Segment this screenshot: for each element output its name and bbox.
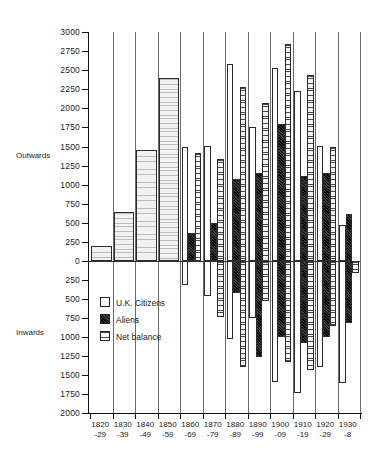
y-tick xyxy=(82,413,89,414)
y-tick-label: 750 xyxy=(42,314,80,323)
bar-net-balance-inwards xyxy=(307,261,314,370)
x-tick xyxy=(338,414,339,419)
x-tick xyxy=(180,414,181,419)
y-tick-label: 2750 xyxy=(42,47,80,56)
y-tick xyxy=(82,127,89,128)
bar-net-balance xyxy=(91,246,112,261)
bar-net-balance-inwards xyxy=(330,261,337,326)
bar-net-balance xyxy=(159,78,180,261)
bar-net-balance xyxy=(352,261,359,273)
x-label-decade-end: -8 xyxy=(337,430,360,440)
bar-net-balance xyxy=(240,87,247,261)
legend-swatch-net-balance xyxy=(100,331,110,341)
x-label-decade-end: -99 xyxy=(247,430,270,440)
x-tick-label: 1880-89 xyxy=(224,420,247,440)
y-tick xyxy=(82,51,89,52)
legend-swatch-uk-citizens xyxy=(100,297,110,307)
bar-net-balance xyxy=(262,103,269,261)
y-tick xyxy=(82,166,89,167)
x-tick-label: 1840-49 xyxy=(134,420,157,440)
x-label-decade-end: -19 xyxy=(292,430,315,440)
y-tick xyxy=(82,147,89,148)
x-tick xyxy=(248,414,249,419)
bar-net-balance xyxy=(114,212,135,261)
x-tick-label: 1870-79 xyxy=(202,420,225,440)
y-tick-label: 0 xyxy=(42,257,80,266)
x-label-decade-start: 1920 xyxy=(314,420,337,430)
y-tick xyxy=(82,108,89,109)
x-label-decade-start: 1850 xyxy=(157,420,180,430)
x-tick-label: 1920-29 xyxy=(314,420,337,440)
y-tick-label: 1750 xyxy=(42,123,80,132)
y-tick-label: 2000 xyxy=(42,409,80,418)
x-tick-label: 1890-99 xyxy=(247,420,270,440)
x-tick-label: 1830-39 xyxy=(112,420,135,440)
grid-line xyxy=(360,32,361,413)
bar-net-balance xyxy=(136,150,157,261)
x-label-decade-end: -59 xyxy=(157,430,180,440)
x-label-decade-start: 1890 xyxy=(247,420,270,430)
x-label-decade-end: -79 xyxy=(202,430,225,440)
legend-swatch-aliens xyxy=(100,314,110,324)
bar-net-balance-inwards xyxy=(240,261,247,367)
bar-aliens xyxy=(346,214,353,261)
x-label-decade-end: -89 xyxy=(224,430,247,440)
bar-net-balance-inwards xyxy=(285,261,292,362)
y-tick xyxy=(82,32,89,33)
y-tick xyxy=(82,89,89,90)
y-tick-label: 2500 xyxy=(42,66,80,75)
axis-label-inwards: Inwards xyxy=(16,329,44,337)
x-tick-label: 1910-19 xyxy=(292,420,315,440)
y-tick-label: 2250 xyxy=(42,85,80,94)
x-tick xyxy=(158,414,159,419)
bar-uk-citizens-inwards xyxy=(182,261,189,285)
y-tick xyxy=(82,356,89,357)
y-tick-label: 2000 xyxy=(42,104,80,113)
x-label-decade-start: 1900 xyxy=(269,420,292,430)
x-label-decade-end: -09 xyxy=(269,430,292,440)
x-tick xyxy=(203,414,204,419)
x-tick-label: 1860-69 xyxy=(179,420,202,440)
x-tick-label: 1850-59 xyxy=(157,420,180,440)
bar-net-balance xyxy=(330,147,337,261)
y-tick-label: 1750 xyxy=(42,390,80,399)
y-tick xyxy=(82,223,89,224)
y-tick xyxy=(82,318,89,319)
y-tick-label: 1000 xyxy=(42,181,80,190)
x-tick xyxy=(225,414,226,419)
x-label-decade-start: 1830 xyxy=(112,420,135,430)
x-tick xyxy=(135,414,136,419)
y-tick xyxy=(82,70,89,71)
y-tick-label: 500 xyxy=(42,295,80,304)
bar-net-balance xyxy=(217,159,224,261)
x-tick xyxy=(293,414,294,419)
x-label-decade-end: -29 xyxy=(314,430,337,440)
x-label-decade-start: 1880 xyxy=(224,420,247,430)
x-label-decade-end: -49 xyxy=(134,430,157,440)
x-tick-label: 1900-09 xyxy=(269,420,292,440)
x-tick xyxy=(270,414,271,419)
bar-uk-citizens-inwards xyxy=(204,261,211,296)
x-tick xyxy=(315,414,316,419)
legend-label: Net balance xyxy=(116,332,161,342)
y-tick xyxy=(82,242,89,243)
x-label-decade-start: 1860 xyxy=(179,420,202,430)
x-label-decade-start: 1870 xyxy=(202,420,225,430)
y-tick-label: 1250 xyxy=(42,162,80,171)
bar-net-balance xyxy=(195,153,202,261)
y-tick-label: 1250 xyxy=(42,352,80,361)
y-tick-label: 1000 xyxy=(42,333,80,342)
y-tick-label: 250 xyxy=(42,238,80,247)
y-tick xyxy=(82,375,89,376)
legend-label: Aliens xyxy=(116,315,139,325)
bar-net-balance xyxy=(307,75,314,261)
x-label-decade-start: 1930 xyxy=(337,420,360,430)
y-tick xyxy=(82,299,89,300)
legend-label: U.K. Citizens xyxy=(116,298,165,308)
x-label-decade-end: -69 xyxy=(179,430,202,440)
x-tick xyxy=(360,414,361,419)
y-tick-label: 750 xyxy=(42,200,80,209)
x-tick-label: 1820-29 xyxy=(89,420,112,440)
x-tick-label: 1930-8 xyxy=(337,420,360,440)
y-tick xyxy=(82,280,89,281)
